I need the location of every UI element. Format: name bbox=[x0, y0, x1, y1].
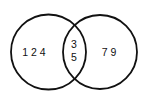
right-only-region-label: 7 9 bbox=[102, 46, 117, 58]
left-only-region-label: 1 2 4 bbox=[22, 46, 46, 58]
venn-diagram: 1 2 4 3 5 7 9 bbox=[0, 0, 142, 99]
intersection-value-3: 3 bbox=[71, 38, 77, 50]
intersection-value-5: 5 bbox=[71, 51, 77, 63]
